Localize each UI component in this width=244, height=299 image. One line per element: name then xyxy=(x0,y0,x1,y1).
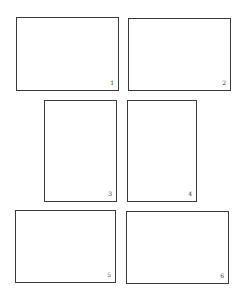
frame-4: 4 xyxy=(127,100,197,202)
frame-6: 6 xyxy=(126,211,229,284)
frame-5: 5 xyxy=(15,210,116,283)
frame-number-label: 1 xyxy=(110,80,114,86)
frame-2: 2 xyxy=(128,18,231,91)
frame-number-label: 2 xyxy=(222,80,226,86)
frame-3: 3 xyxy=(44,100,117,202)
frame-1: 1 xyxy=(16,17,119,91)
frame-number-label: 6 xyxy=(220,273,224,279)
frame-number-label: 5 xyxy=(107,272,111,278)
frame-number-label: 3 xyxy=(108,191,112,197)
frame-number-label: 4 xyxy=(188,191,192,197)
